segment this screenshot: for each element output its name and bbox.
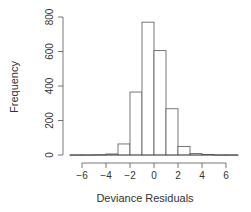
x-tick-label: 0 — [151, 170, 157, 181]
x-tick-label: −6 — [76, 170, 88, 181]
x-tick-label: 4 — [199, 170, 205, 181]
y-tick-label: 0 — [44, 152, 55, 158]
x-tick-label: 2 — [175, 170, 181, 181]
histogram-bar — [154, 51, 166, 155]
histogram-chart: 0200400600800 −6−4−20246 Deviance Residu… — [0, 0, 251, 212]
y-tick-label: 800 — [44, 8, 55, 25]
y-axis: 0200400600800 — [44, 8, 63, 158]
y-tick-label: 400 — [44, 77, 55, 94]
x-tick-label: 6 — [223, 170, 229, 181]
x-tick-label: −4 — [100, 170, 112, 181]
y-tick-label: 600 — [44, 43, 55, 60]
x-tick-label: −2 — [124, 170, 136, 181]
x-axis: −6−4−20246 — [76, 163, 229, 181]
histogram-bar — [166, 109, 178, 155]
histogram-bar — [142, 22, 154, 155]
histogram-bar — [118, 144, 130, 155]
histogram-bar — [178, 146, 190, 155]
histogram-bar — [130, 92, 142, 155]
y-tick-label: 200 — [44, 112, 55, 129]
bars-group — [70, 22, 238, 155]
y-axis-label: Frequency — [8, 61, 20, 113]
x-axis-label: Deviance Residuals — [96, 192, 194, 204]
